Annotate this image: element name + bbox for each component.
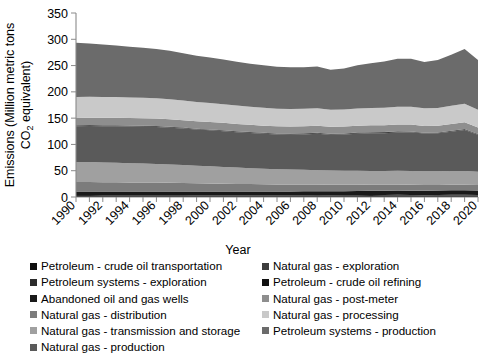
- legend-item-label: Natural gas - transmission and storage: [41, 325, 240, 337]
- legend-swatch-icon: [30, 295, 37, 302]
- legend-swatch-icon: [30, 327, 37, 334]
- chart-areas: [76, 43, 478, 197]
- legend-item-label: Abandoned oil and gas wells: [41, 293, 189, 305]
- x-tick-label: 2016: [397, 198, 427, 228]
- x-tick-label: 2002: [209, 198, 239, 228]
- legend-item-label: Natural gas - post-meter: [273, 293, 398, 305]
- x-tick-label: 2012: [343, 198, 373, 228]
- y-tick-label: 200: [47, 85, 68, 99]
- legend-swatch-icon: [262, 327, 269, 334]
- legend-item-label: Natural gas - distribution: [41, 309, 167, 321]
- x-tick-label: 2014: [370, 198, 400, 228]
- legend-item-label: Natural gas - exploration: [273, 260, 399, 272]
- legend-swatch-icon: [262, 279, 269, 286]
- x-tick-label: 2010: [317, 198, 347, 228]
- legend-swatch-icon: [30, 279, 37, 286]
- legend-item: Petroleum systems - production: [262, 323, 436, 339]
- y-axis-title-line: Emissions (Million metric tons: [3, 23, 17, 188]
- y-tick-label: 300: [47, 33, 68, 47]
- y-axis-title-line: CO2 equivalent): [19, 61, 35, 149]
- y-axis-title: Emissions (Million metric tonsCO2 equiva…: [3, 23, 35, 188]
- y-tick-label: 100: [47, 138, 68, 152]
- y-tick-label: 50: [54, 164, 68, 178]
- x-axis-title: Year: [225, 243, 250, 257]
- x-tick-label: 1990: [49, 198, 79, 228]
- legend-swatch-icon: [262, 311, 269, 318]
- legend-item-label: Petroleum systems - exploration: [41, 276, 207, 288]
- legend-swatch-icon: [30, 344, 37, 351]
- legend-swatch-icon: [262, 263, 269, 270]
- legend-item: Natural gas - processing: [262, 307, 436, 323]
- legend-item: Petroleum systems - exploration: [30, 274, 240, 290]
- x-tick-label: 1994: [102, 198, 132, 228]
- x-tick-label: 1996: [129, 198, 159, 228]
- x-tick-label: 2000: [183, 198, 213, 228]
- legend-item: Natural gas - transmission and storage: [30, 323, 240, 339]
- stacked-area-chart: 050100150200250300350 199019921994199619…: [0, 0, 484, 262]
- y-tick-label: 350: [47, 7, 68, 21]
- x-tick-label: 2006: [263, 198, 293, 228]
- legend-item-label: Natural gas - production: [41, 341, 165, 353]
- legend-column-right: Natural gas - explorationPetroleum - cru…: [262, 258, 436, 339]
- y-tick-label: 250: [47, 59, 68, 73]
- legend-item-label: Petroleum systems - production: [273, 325, 436, 337]
- x-tick-label: 2018: [424, 198, 454, 228]
- y-tick-label: 150: [47, 112, 68, 126]
- x-tick-label: 2008: [290, 198, 320, 228]
- x-tick-label: 2020: [451, 198, 481, 228]
- legend-item: Natural gas - post-meter: [262, 290, 436, 306]
- legend-item: Natural gas - production: [30, 339, 240, 355]
- legend-swatch-icon: [30, 263, 37, 270]
- legend-swatch-icon: [30, 311, 37, 318]
- legend-item: Natural gas - distribution: [30, 307, 240, 323]
- legend-item: Petroleum - crude oil transportation: [30, 258, 240, 274]
- legend-item: Natural gas - exploration: [262, 258, 436, 274]
- legend-swatch-icon: [262, 295, 269, 302]
- x-tick-label: 2004: [236, 198, 266, 228]
- x-tick-label: 1992: [75, 198, 105, 228]
- legend-item-label: Petroleum - crude oil refining: [273, 276, 421, 288]
- chart-figure: 050100150200250300350 199019921994199619…: [0, 0, 484, 361]
- legend-column-left: Petroleum - crude oil transportationPetr…: [30, 258, 240, 355]
- y-axis-ticks: 050100150200250300350: [47, 7, 76, 205]
- x-tick-label: 1998: [156, 198, 186, 228]
- legend-item-label: Petroleum - crude oil transportation: [41, 260, 222, 272]
- legend-item: Petroleum - crude oil refining: [262, 274, 436, 290]
- chart-legend: Petroleum - crude oil transportationPetr…: [0, 258, 484, 361]
- x-axis-ticks: 1990199219941996199820002002200420062008…: [49, 197, 481, 228]
- legend-item-label: Natural gas - processing: [273, 309, 399, 321]
- legend-item: Abandoned oil and gas wells: [30, 290, 240, 306]
